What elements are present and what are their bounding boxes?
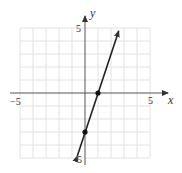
x-intercept-point	[95, 90, 100, 95]
y-axis-label: y	[89, 6, 96, 20]
y-intercept-point	[82, 129, 87, 134]
x-tick-min: −5	[10, 96, 21, 107]
x-tick-max: 5	[148, 95, 153, 106]
y-tick-max: 5	[76, 23, 81, 34]
coordinate-plane: x y −5 5 5 5	[0, 0, 182, 173]
x-axis-label: x	[167, 93, 174, 107]
